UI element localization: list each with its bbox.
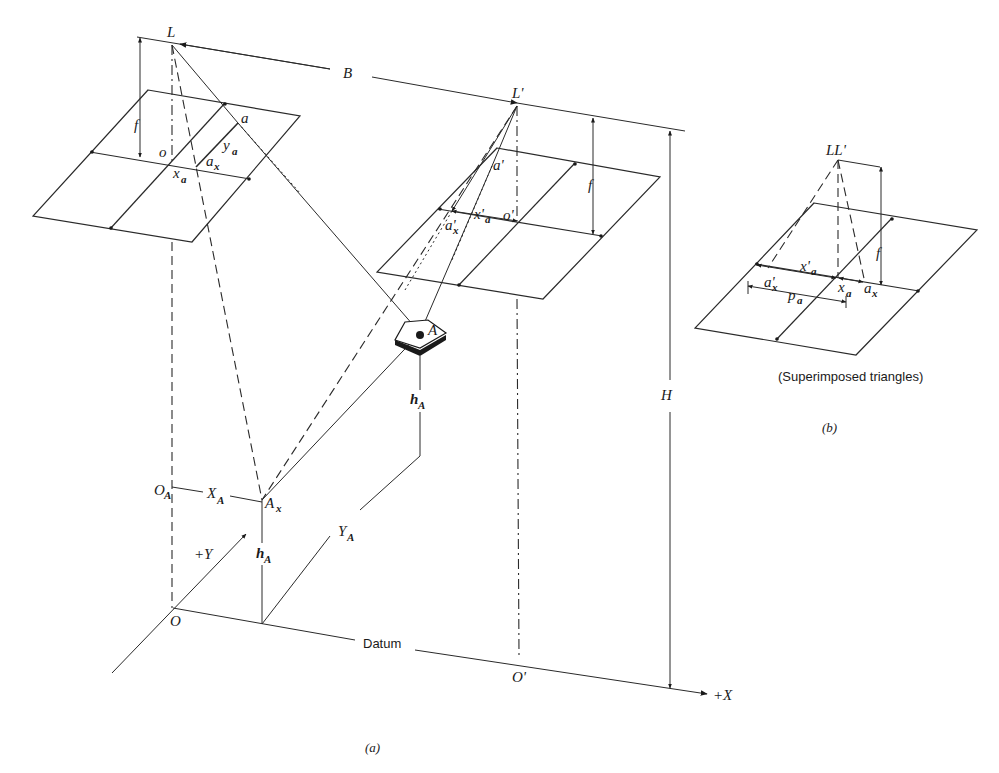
svg-text:a: a [797,294,803,306]
svg-text:x: x [837,279,845,295]
svg-text:x: x [213,160,220,172]
svg-text:a: a [864,280,872,296]
label-datum: Datum [363,636,401,651]
label-f-left: f [134,117,140,133]
svg-text:y: y [221,137,230,153]
svg-text:A: A [346,531,354,543]
svg-text:X: X [206,485,217,501]
ground-geometry [112,131,707,694]
svg-text:x': x' [799,258,811,274]
label-plus-X: +X [713,687,733,703]
label-LL-prime: LL' [825,142,847,158]
label-x-prime-a-b: x' a [799,258,817,277]
panel-a: L L' B f f H o a y a a x x a a' o' x' a … [33,24,733,755]
svg-text:a: a [181,173,187,185]
svg-text:a: a [206,153,214,169]
svg-text:x: x [771,281,778,293]
label-O: O [170,613,181,629]
label-Y-A: Y A [338,523,354,543]
svg-text:A: A [264,495,275,511]
svg-text:a: a [485,213,491,225]
label-a-prime: a' [493,157,505,173]
label-O-prime: O' [512,669,527,685]
panel-b-subtitle: (Superimposed triangles) [778,369,923,384]
terrain-point-A [395,320,446,356]
svg-text:x: x [452,224,459,236]
svg-text:a: a [811,265,817,277]
label-L-prime: L' [511,85,524,101]
label-H: H [660,387,673,403]
caption-a: (a) [365,740,380,755]
svg-text:x': x' [473,206,485,222]
label-o: o [159,144,167,160]
panel-b: LL' f x' a a' x p a x a a x (Superimpose… [695,142,977,435]
svg-text:p: p [787,287,796,303]
stereo-parallax-diagram: L L' B f f H o a y a a x x a a' o' x' a … [0,0,999,773]
left-photo [33,90,300,242]
left-rays [172,45,420,608]
label-p-a: p a [787,287,803,306]
label-o-prime: o' [503,207,515,223]
svg-text:A: A [417,399,425,411]
label-a-prime-x: a' x [445,217,459,236]
label-x-a-b: x a [837,279,852,299]
label-x-prime-a: x' a [473,206,491,225]
svg-text:A: A [216,494,224,506]
label-L: L [166,24,175,40]
svg-text:a: a [232,145,238,157]
right-rays [262,106,519,655]
label-A: A [427,322,438,338]
svg-text:A: A [163,489,171,501]
air-base-line [137,37,685,131]
label-y-a: y a [221,137,238,157]
svg-text:a: a [846,287,852,299]
caption-b: (b) [822,420,837,435]
label-a: a [241,110,249,126]
svg-text:x: x [172,165,180,181]
svg-text:A: A [263,553,271,565]
svg-text:x: x [275,502,282,514]
label-a-x-b: a x [864,280,878,299]
label-plus-Y: +Y [194,546,214,562]
label-O-A: O A [154,482,171,501]
svg-text:x: x [871,287,878,299]
label-A-x: A x [264,495,282,514]
label-B: B [343,65,352,81]
label-X-A: X A [206,485,224,506]
label-h-A-left: h A [256,545,271,565]
right-photo [377,148,660,299]
label-h-A-right: h A [410,391,425,411]
label-a-x-left: a x [206,153,220,172]
